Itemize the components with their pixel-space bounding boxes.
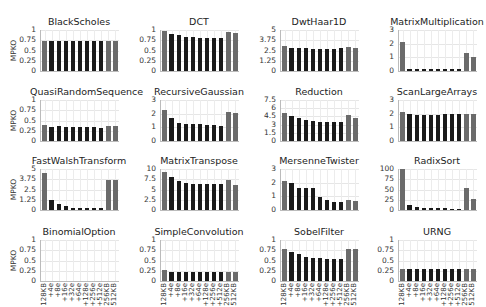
bar-plus-256e (450, 269, 454, 281)
y-tick-label: 0 (246, 277, 276, 285)
y-tick-label: 1 (126, 236, 156, 244)
chart-title: SimpleConvolution (150, 226, 248, 237)
chart-title: URNG (388, 226, 486, 237)
bar-256kb (346, 249, 350, 281)
y-axis-label: MPKO (9, 245, 18, 275)
bar-plus-4e (289, 252, 293, 281)
bar-plus-512e (457, 269, 461, 281)
gridline (87, 240, 88, 281)
bar-plus-256e (212, 272, 216, 281)
plot-area (280, 240, 359, 282)
y-tick-label: 0.25 (126, 267, 156, 275)
plot-area (398, 240, 477, 282)
gridline (59, 240, 60, 281)
bar-plus-16e (422, 269, 426, 281)
gridline (94, 240, 95, 281)
bar-plus-128e (325, 259, 329, 281)
bar-plus-64e (318, 258, 322, 281)
y-tick-label: 0 (364, 277, 394, 285)
chart-panel-binomialoption: BinomialOption00.250.50.751MPKO128KB+4e+… (0, 0, 120, 307)
chart-title: BinomialOption (30, 226, 128, 237)
bar-128kb (282, 249, 286, 281)
chart-panel-sobelfilter: SobelFilter00.250.50.751128KB+4e+8e+16e+… (240, 0, 360, 307)
gridline (101, 240, 102, 281)
gridline (108, 240, 109, 281)
bar-plus-128e (205, 272, 209, 281)
y-tick-label: 0.75 (364, 246, 394, 254)
bar-128kb (162, 270, 166, 281)
bar-128kb (400, 269, 404, 281)
y-tick-label: 1 (364, 236, 394, 244)
y-tick-label: 0 (6, 277, 36, 285)
chart-panel-simpleconvolution: SimpleConvolution00.250.50.751128KB+4e+8… (120, 0, 240, 307)
bar-plus-32e (429, 269, 433, 281)
y-tick-label: 0.25 (364, 267, 394, 275)
bar-512kb (471, 269, 475, 281)
bar-plus-32e (191, 272, 195, 281)
bar-plus-4e (169, 272, 173, 281)
x-tick-label: 512KB (110, 283, 118, 307)
y-tick-label: 0.5 (126, 257, 156, 265)
bar-plus-16e (304, 257, 308, 281)
gridline (66, 240, 67, 281)
y-tick-label: 1 (6, 236, 36, 244)
bar-plus-512e (339, 259, 343, 281)
y-tick-label: 0.75 (126, 246, 156, 254)
gridline (52, 240, 53, 281)
x-tick-label: 512KB (230, 283, 238, 307)
bar-512kb (353, 249, 357, 281)
bar-plus-16e (184, 272, 188, 281)
bar-plus-64e (198, 272, 202, 281)
gridline (73, 240, 74, 281)
plot-area (160, 240, 239, 282)
bar-plus-8e (177, 272, 181, 281)
bar-plus-8e (297, 254, 301, 281)
bar-plus-32e (311, 258, 315, 281)
y-tick-label: 0.5 (364, 257, 394, 265)
bar-256kb (464, 269, 468, 281)
y-tick-label: 1 (246, 236, 276, 244)
gridline (80, 240, 81, 281)
chart-title: SobelFilter (270, 226, 368, 237)
gridline (115, 240, 116, 281)
gridline (45, 240, 46, 281)
y-tick-label: 0.5 (246, 257, 276, 265)
bar-plus-4e (407, 269, 411, 281)
bar-512kb (233, 272, 237, 281)
bar-plus-128e (443, 269, 447, 281)
plot-area (40, 240, 119, 282)
bar-plus-8e (415, 269, 419, 281)
y-tick-label: 0 (126, 277, 156, 285)
bar-plus-256e (332, 259, 336, 281)
y-tick-label: 0.25 (246, 267, 276, 275)
bar-plus-64e (436, 269, 440, 281)
x-tick-label: 512KB (468, 283, 476, 307)
y-tick-label: 0.75 (246, 246, 276, 254)
bar-plus-512e (219, 272, 223, 281)
bar-256kb (226, 272, 230, 281)
chart-panel-urng: URNG00.250.50.751128KB+4e+8e+16e+32e+64e… (358, 0, 478, 307)
